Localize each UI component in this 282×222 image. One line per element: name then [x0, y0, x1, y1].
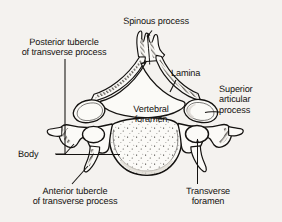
- label-vertebral-foramen-line1: Vertebral: [117, 104, 185, 114]
- label-anterior-tubercle-line1: Anterior tubercle: [8, 186, 142, 196]
- label-posterior-tubercle-line1: Posterior tubercle: [6, 37, 122, 47]
- label-transverse-foramen-line1: Transverse: [166, 186, 250, 196]
- label-posterior-tubercle-line2: of transverse process: [6, 47, 122, 57]
- label-transverse-foramen: Transverse foramen: [166, 186, 250, 207]
- label-superior-articular-process: Superior articular process: [219, 84, 279, 115]
- label-lamina-line1: Lamina: [171, 68, 217, 78]
- posterior-tubercle-right: [229, 127, 244, 136]
- transverse-foramen-left: [83, 126, 105, 142]
- label-spinous-process-line1: Spinous process: [104, 16, 208, 26]
- posterior-tubercle-left: [47, 127, 62, 136]
- label-transverse-foramen-line2: foramen: [166, 196, 250, 206]
- anterior-tubercle-right: [191, 146, 206, 172]
- vertebral-body-shape: [109, 118, 181, 175]
- cervical-vertebra-figure: Spinous process Posterior tubercle of tr…: [0, 0, 282, 222]
- label-superior-articular-process-line1: Superior: [219, 84, 279, 94]
- label-spinous-process: Spinous process: [104, 16, 208, 26]
- label-lamina: Lamina: [171, 68, 217, 78]
- label-anterior-tubercle: Anterior tubercle of transverse process: [8, 186, 142, 207]
- label-body-line1: Body: [18, 149, 54, 159]
- label-vertebral-foramen: Vertebral foramen: [117, 104, 185, 125]
- label-superior-articular-process-line3: process: [219, 105, 279, 115]
- label-vertebral-foramen-line2: foramen: [117, 114, 185, 124]
- label-superior-articular-process-line2: articular: [219, 94, 279, 104]
- label-posterior-tubercle: Posterior tubercle of transverse process: [6, 37, 122, 58]
- leader-anterior-tubercle: [72, 166, 88, 184]
- label-anterior-tubercle-line2: of transverse process: [8, 196, 142, 206]
- label-body: Body: [18, 149, 54, 159]
